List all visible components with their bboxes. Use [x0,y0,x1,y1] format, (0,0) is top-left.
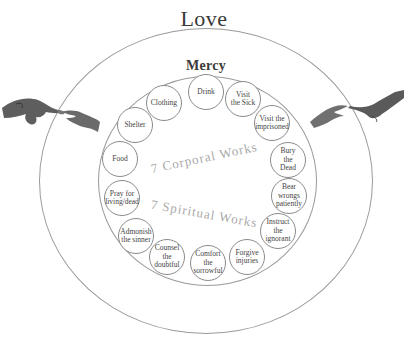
left-hand-icon [2,98,65,124]
left-inner-hand-icon [62,111,100,132]
right-inner-hand-icon [310,105,348,128]
right-hand-icon [348,90,404,122]
work-counsel-doubtful: Counsel the doubtful [149,239,185,275]
work-forgive-injuries: Forgive injuries [229,239,265,275]
work-drink: Drink [188,74,224,110]
work-shelter: Shelter [117,107,153,143]
work-clothing: Clothing [146,85,182,121]
work-visit-sick: Visit the Sick [225,81,261,117]
hands-layer [0,0,408,342]
work-instruct-ignorant: Instruct the ignorant [260,213,296,249]
work-comfort-sorrowful: Comfort the sorrowful [190,245,226,281]
work-bear-wrongs: Bear wrongs patiently [271,178,307,214]
work-bury-dead: Bury the Dead [270,142,306,178]
work-visit-imprisoned: Visit the imprisoned [254,105,290,141]
work-pray-living-dead: Pray for living/dead [104,180,140,216]
work-food: Food [102,141,138,177]
work-admonish-sinner: Admonish the sinner [118,218,154,254]
